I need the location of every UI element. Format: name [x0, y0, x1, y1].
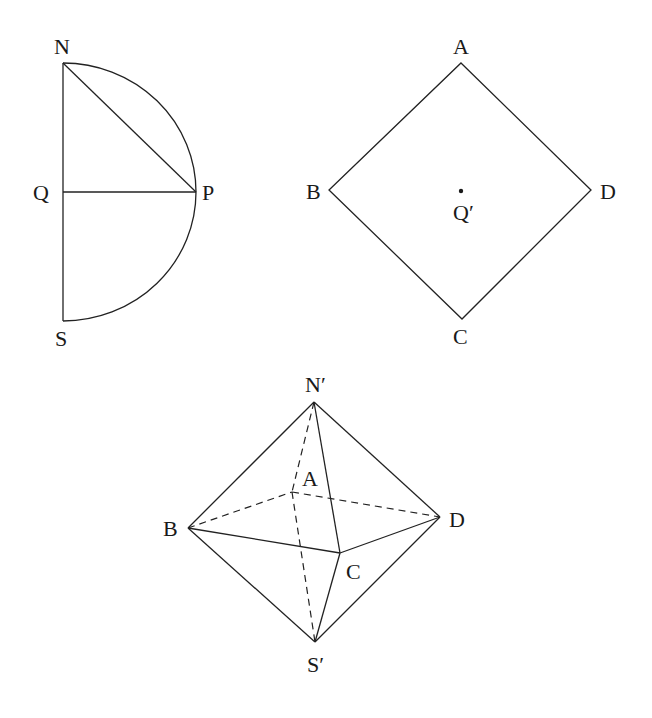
- edge-CD: [340, 517, 440, 553]
- label-B: B: [306, 179, 321, 204]
- label-D3: D: [449, 507, 465, 532]
- diagram-canvas: N Q P S A B D C Q′ N′ A B D C S′: [0, 0, 652, 718]
- label-A3: A: [302, 466, 318, 491]
- label-Sp: S′: [307, 652, 324, 677]
- center-point-Qp: [459, 189, 463, 193]
- hidden-edge-BA: [188, 492, 292, 528]
- label-S: S: [55, 326, 67, 351]
- chord-NP: [63, 63, 196, 192]
- label-Qp: Q′: [453, 200, 474, 225]
- hidden-edge-AD: [292, 492, 440, 517]
- label-D: D: [600, 179, 616, 204]
- octahedron-figure: N′ A B D C S′: [163, 372, 465, 677]
- label-B3: B: [163, 516, 178, 541]
- label-C3: C: [346, 559, 361, 584]
- semicircle-figure: N Q P S: [33, 34, 214, 351]
- edge-NpD: [314, 402, 440, 517]
- hidden-edge-ASp: [292, 492, 315, 642]
- label-C: C: [453, 324, 468, 349]
- square-figure: A B D C Q′: [306, 34, 616, 349]
- label-N: N: [54, 34, 70, 59]
- label-P: P: [202, 180, 214, 205]
- label-Np: N′: [305, 372, 326, 397]
- edge-DSp: [315, 517, 440, 642]
- label-Q: Q: [33, 180, 49, 205]
- label-A: A: [453, 34, 469, 59]
- edge-NpC: [314, 402, 340, 553]
